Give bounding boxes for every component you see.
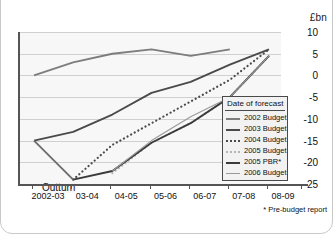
legend-label: 2004 Budget bbox=[244, 135, 287, 144]
y-tick-label: 10 bbox=[286, 27, 318, 38]
x-tick-label: 07-08 bbox=[232, 191, 255, 201]
x-tick-label: 2002-03 bbox=[31, 191, 64, 201]
x-tick-label: 06-07 bbox=[193, 191, 216, 201]
legend-line bbox=[226, 162, 240, 164]
x-tick-label: 04-05 bbox=[115, 191, 138, 201]
y-axis: 1050-5-10-15-20-25 bbox=[286, 32, 330, 184]
legend-item: 2005 Budget bbox=[225, 145, 285, 156]
legend-line bbox=[226, 173, 240, 174]
legend-swatch bbox=[225, 135, 241, 145]
x-tick bbox=[110, 184, 111, 189]
x-tick-label: 05-06 bbox=[154, 191, 177, 201]
legend-swatch bbox=[225, 113, 241, 123]
x-tick bbox=[71, 184, 72, 189]
x-tick bbox=[32, 184, 33, 189]
budget-forecast-chart: £bn Outturn 1050-5-10-15-20-25 2002-0303… bbox=[0, 0, 335, 241]
y-tick-label: 0 bbox=[286, 70, 318, 81]
series-line bbox=[34, 141, 73, 180]
y-tick-label: 5 bbox=[286, 48, 318, 59]
y-tick-label: -5 bbox=[286, 92, 318, 103]
legend-item: 2006 Budget bbox=[225, 167, 285, 178]
legend-item: 2004 Budget bbox=[225, 134, 285, 145]
legend-label: 2006 Budget bbox=[244, 168, 287, 177]
x-tick-label: 08-09 bbox=[271, 191, 294, 201]
legend-line bbox=[226, 140, 240, 142]
x-tick bbox=[150, 184, 151, 189]
legend-item: 2002 Budget bbox=[225, 112, 285, 123]
legend-item: 2003 Budget bbox=[225, 123, 285, 134]
x-tick bbox=[189, 184, 190, 189]
legend-swatch bbox=[225, 146, 241, 156]
x-tick bbox=[228, 184, 229, 189]
x-tick-label: 03-04 bbox=[76, 191, 99, 201]
legend-line bbox=[226, 129, 240, 131]
series-line bbox=[34, 49, 230, 75]
y-tick-label: -20 bbox=[286, 157, 318, 168]
legend-item: 2005 PBR* bbox=[225, 156, 285, 167]
legend-swatch bbox=[225, 124, 241, 134]
legend: Date of forecast 2002 Budget2003 Budget2… bbox=[222, 96, 288, 181]
x-tick bbox=[267, 184, 268, 189]
y-axis-units-label: £bn bbox=[310, 12, 327, 23]
legend-line bbox=[226, 118, 240, 120]
legend-label: 2005 PBR* bbox=[244, 157, 281, 166]
legend-label: 2003 Budget bbox=[244, 124, 287, 133]
legend-swatch bbox=[225, 157, 241, 167]
y-tick-label: -15 bbox=[286, 135, 318, 146]
legend-items: 2002 Budget2003 Budget2004 Budget2005 Bu… bbox=[225, 112, 285, 178]
legend-label: 2002 Budget bbox=[244, 113, 287, 122]
x-axis-line bbox=[18, 184, 308, 186]
legend-line bbox=[226, 151, 240, 153]
footnote: * Pre-budget report bbox=[263, 205, 327, 214]
legend-title: Date of forecast bbox=[225, 98, 285, 111]
x-tick bbox=[301, 184, 302, 189]
legend-label: 2005 Budget bbox=[244, 146, 287, 155]
y-tick-label: -10 bbox=[286, 113, 318, 124]
legend-swatch bbox=[225, 168, 241, 178]
